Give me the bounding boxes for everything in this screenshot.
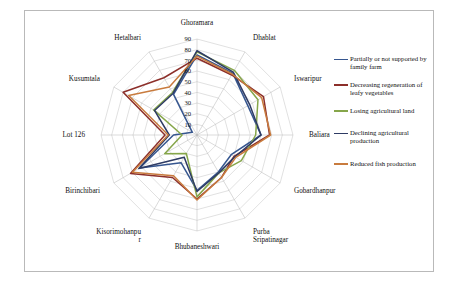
legend-label: Declining agricultural production [350, 129, 434, 146]
axis-category-label: Birinchibari [65, 187, 100, 195]
radial-tick-label: 60 [184, 67, 191, 74]
legend-item[interactable]: Partially or not supported by family far… [334, 55, 434, 72]
axis-category-label: Kusumtala [69, 75, 101, 83]
series-line-0 [140, 55, 261, 190]
axis-category-label: Dhablat [253, 34, 276, 42]
series-line-1 [123, 58, 269, 199]
legend-color-swatch [334, 163, 348, 165]
radial-tick-label: 80 [184, 46, 191, 53]
radial-tick-label: 30 [184, 99, 191, 106]
legend-color-swatch [334, 59, 348, 61]
figure-panel: 102030405060708090GhoramaraDhablatIswari… [24, 10, 434, 272]
axis-category-label: Sripatinagar [253, 236, 289, 244]
axis-category-label: r [139, 236, 142, 244]
radial-tick-label: 10 [184, 121, 191, 128]
legend-item[interactable]: Reduced fish production [334, 160, 434, 168]
legend-item[interactable]: Declining agricultural production [334, 129, 434, 146]
axis-category-label: Hetalbari [114, 34, 141, 42]
legend-item[interactable]: Losing agricultural land [334, 107, 434, 115]
axis-category-label: Lot 126 [62, 131, 85, 139]
axis-category-label: Bhubaneshwari [175, 243, 220, 251]
radar-chart-svg: 102030405060708090GhoramaraDhablatIswari… [25, 11, 355, 273]
radial-tick-label: 20 [184, 110, 191, 117]
legend-label: Partially or not supported by family far… [350, 55, 434, 72]
axis-category-label: Ghoramara [181, 19, 214, 27]
axis-category-label: Iswaripur [294, 75, 322, 83]
chart-legend: Partially or not supported by family far… [334, 55, 434, 177]
radial-tick-label: 90 [184, 35, 191, 42]
legend-color-swatch [334, 110, 348, 112]
legend-item[interactable]: Decreasing regeneration of leafy vegetab… [334, 81, 434, 98]
radar-chart-plot: 102030405060708090GhoramaraDhablatIswari… [25, 11, 355, 273]
radial-tick-label: 70 [184, 57, 191, 64]
axis-category-label: Gobardhanpur [294, 187, 336, 195]
legend-label: Reduced fish production [350, 160, 434, 168]
legend-color-swatch [334, 84, 348, 86]
grid-spoke [197, 135, 280, 183]
axis-category-label: Baliara [309, 131, 331, 139]
legend-label: Decreasing regeneration of leafy vegetab… [350, 81, 434, 98]
grid-spoke [197, 135, 245, 218]
radial-tick-label: 50 [184, 78, 191, 85]
legend-color-swatch [334, 133, 348, 135]
radial-tick-label: 40 [184, 89, 191, 96]
axis-category-label: Kisorimohanpu [96, 228, 141, 236]
series-line-4 [129, 56, 271, 200]
legend-label: Losing agricultural land [350, 107, 434, 115]
